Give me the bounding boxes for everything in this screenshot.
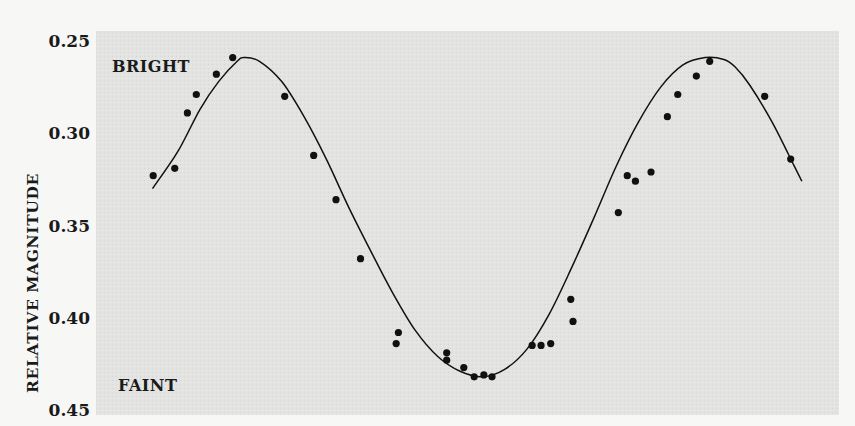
data-point [193, 91, 200, 98]
y-tick-label: 0.30 [49, 123, 91, 143]
data-point [150, 172, 157, 179]
y-tick-label: 0.25 [49, 31, 90, 51]
light-curve-chart: 0.250.300.350.400.45 RELATIVE MAGNITUDE … [0, 0, 855, 426]
annotation-faint: FAINT [118, 376, 177, 395]
data-point [488, 373, 495, 380]
data-point [393, 340, 400, 347]
data-point [761, 93, 768, 100]
y-tick-label: 0.45 [49, 400, 90, 420]
data-point [706, 58, 713, 65]
data-point [674, 91, 681, 98]
data-point [787, 155, 794, 162]
data-point [229, 54, 236, 61]
data-point [632, 178, 639, 185]
data-point [537, 342, 544, 349]
data-point [480, 371, 487, 378]
data-point [395, 329, 402, 336]
data-point [693, 72, 700, 79]
data-point [443, 357, 450, 364]
data-point [529, 342, 536, 349]
data-point [213, 71, 220, 78]
data-point [184, 109, 191, 116]
data-point [332, 196, 339, 203]
data-point [310, 152, 317, 159]
data-point [460, 364, 467, 371]
data-point [615, 209, 622, 216]
data-point [171, 165, 178, 172]
data-point [443, 349, 450, 356]
annotation-bright: BRIGHT [112, 57, 190, 76]
y-axis: 0.250.300.350.400.45 [49, 31, 91, 420]
data-point [547, 340, 554, 347]
y-tick-label: 0.35 [49, 216, 90, 236]
data-point [567, 296, 574, 303]
data-point [569, 318, 576, 325]
data-point [664, 113, 671, 120]
data-point [647, 168, 654, 175]
data-point [357, 255, 364, 262]
data-point [281, 93, 288, 100]
y-tick-label: 0.40 [49, 308, 91, 328]
plot-area [96, 31, 839, 415]
data-point [624, 172, 631, 179]
y-axis-title: RELATIVE MAGNITUDE [23, 173, 42, 393]
data-point [471, 373, 478, 380]
